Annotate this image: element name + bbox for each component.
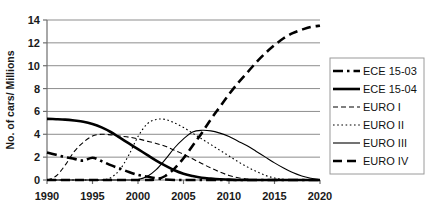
y-axis-title: No. of cars/ Millions <box>4 50 16 149</box>
x-tick-label: 2015 <box>262 190 286 202</box>
legend-label: EURO I <box>363 101 401 113</box>
legend-label: EURO IV <box>363 155 409 167</box>
y-tick-label: 14 <box>28 14 41 26</box>
y-tick-label: 10 <box>28 60 40 72</box>
y-tick-label: 2 <box>34 151 40 163</box>
y-tick-label: 8 <box>34 83 40 95</box>
y-axis-ticks: 02468101214 <box>28 14 47 186</box>
y-tick-label: 12 <box>28 37 40 49</box>
x-tick-label: 1990 <box>35 190 59 202</box>
legend-label: EURO II <box>363 119 404 131</box>
y-axis-label: No. of cars/ Millions <box>4 50 16 149</box>
legend-label: EURO III <box>363 137 407 149</box>
series-line-euro-ii <box>47 119 320 180</box>
chart-legend: ECE 15-03ECE 15-04EURO IEURO IIEURO IIIE… <box>330 58 424 174</box>
x-tick-label: 2000 <box>126 190 150 202</box>
chart-container: 02468101214 1990199520002005201020152020… <box>0 0 428 220</box>
legend-label: ECE 15-03 <box>363 65 417 77</box>
x-tick-label: 1995 <box>80 190 104 202</box>
x-axis-ticks: 1990199520002005201020152020 <box>35 180 332 202</box>
x-tick-label: 2010 <box>217 190 241 202</box>
y-tick-label: 6 <box>34 105 40 117</box>
x-tick-label: 2005 <box>171 190 195 202</box>
legend-label: ECE 15-04 <box>363 83 417 95</box>
line-chart: 02468101214 1990199520002005201020152020… <box>0 0 428 220</box>
y-tick-label: 0 <box>34 174 40 186</box>
y-tick-label: 4 <box>34 128 41 140</box>
x-tick-label: 2020 <box>308 190 332 202</box>
